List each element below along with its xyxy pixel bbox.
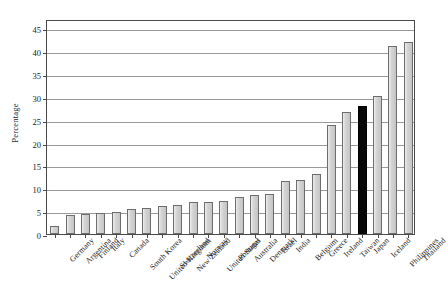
y-axis-title: Percentage — [10, 83, 20, 163]
y-axis-tick-label: 0 — [37, 231, 41, 241]
bar — [281, 181, 290, 234]
bar — [219, 201, 228, 234]
bar-slot — [278, 21, 293, 234]
y-axis-tick-label: 10 — [33, 185, 42, 195]
bar-slot — [401, 21, 416, 234]
bar-slot — [308, 21, 323, 234]
x-axis-labels: GermanyArgentinaFinlandItalyCanadaSouth … — [46, 236, 415, 307]
bar — [250, 195, 259, 234]
bar-slot — [109, 21, 124, 234]
y-axis-tick-label: 45 — [33, 25, 42, 35]
bar — [127, 209, 136, 234]
bar — [142, 208, 151, 234]
bar-slot — [170, 21, 185, 234]
bar — [81, 214, 90, 234]
bar — [342, 112, 351, 234]
y-axis-tick-label: 5 — [37, 208, 41, 218]
y-axis-tick-label: 35 — [33, 71, 42, 81]
bar — [358, 106, 367, 234]
x-axis-tick-label: Canada — [127, 236, 151, 260]
y-axis-tick-label: 30 — [33, 94, 42, 104]
bar-slot — [293, 21, 308, 234]
bar-slot — [124, 21, 139, 234]
bar-slot — [78, 21, 93, 234]
bar — [173, 205, 182, 234]
bar — [189, 202, 198, 234]
bar — [373, 96, 382, 234]
y-axis-tick-label: 25 — [33, 117, 42, 127]
bar — [312, 174, 321, 234]
bar — [66, 215, 75, 234]
bar-series — [47, 21, 414, 234]
bar-slot — [324, 21, 339, 234]
bar — [296, 180, 305, 234]
bar-slot — [139, 21, 154, 234]
bar-slot — [155, 21, 170, 234]
y-axis-tick-label: 40 — [33, 48, 42, 58]
bar — [204, 202, 213, 234]
bar — [265, 194, 274, 234]
bar — [235, 197, 244, 234]
bar — [327, 125, 336, 234]
bar — [96, 213, 105, 235]
plot-area: 051015202530354045 — [46, 20, 415, 235]
bar-slot — [201, 21, 216, 234]
bar-slot — [185, 21, 200, 234]
bar — [158, 206, 167, 234]
y-axis-tick-label: 15 — [33, 162, 42, 172]
bar-slot — [216, 21, 231, 234]
bar-slot — [62, 21, 77, 234]
bar-slot — [247, 21, 262, 234]
bar-slot — [262, 21, 277, 234]
bar — [404, 42, 413, 234]
x-axis-tick-label: Iceland — [389, 236, 413, 260]
bar — [388, 46, 397, 234]
bar-slot — [370, 21, 385, 234]
bar-slot — [339, 21, 354, 234]
bar-slot — [385, 21, 400, 234]
bar-slot — [355, 21, 370, 234]
bar-slot — [47, 21, 62, 234]
y-axis-tick-label: 20 — [33, 140, 42, 150]
bar — [112, 212, 121, 234]
bar — [50, 226, 59, 234]
x-axis-tick-label: India — [294, 236, 312, 254]
bar-slot — [93, 21, 108, 234]
bar-slot — [232, 21, 247, 234]
